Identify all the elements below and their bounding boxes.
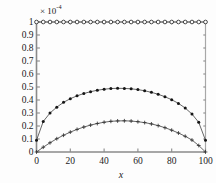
series-marker-0	[143, 20, 147, 24]
series-marker-1	[103, 88, 106, 91]
series-marker-0	[102, 20, 106, 24]
series-marker-1	[76, 94, 79, 97]
y-tick-label: 0	[29, 147, 34, 157]
y-tick-label: 0.7	[22, 56, 34, 66]
series-marker-1	[204, 139, 207, 142]
y-tick-label: 0.6	[22, 69, 34, 79]
series-marker-0	[75, 20, 79, 24]
series-marker-1	[130, 87, 133, 90]
series-marker-1	[136, 88, 139, 91]
series-marker-0	[150, 20, 154, 24]
series-marker-1	[163, 95, 166, 98]
y-tick-label: 1	[29, 17, 34, 27]
series-marker-0	[156, 20, 160, 24]
series-marker-1	[69, 97, 72, 100]
series-marker-0	[123, 20, 127, 24]
series-marker-1	[197, 121, 200, 124]
series-marker-0	[170, 20, 174, 24]
series-marker-1	[55, 106, 58, 109]
y-tick-label: 0.1	[22, 134, 34, 144]
series-marker-1	[190, 113, 193, 116]
series-marker-1	[184, 107, 187, 110]
series-line-1	[37, 88, 206, 140]
series-marker-1	[96, 89, 99, 92]
series-marker-0	[183, 20, 187, 24]
series-marker-1	[109, 87, 112, 90]
y-tick-label: 0.4	[22, 95, 34, 105]
series-marker-0	[197, 20, 201, 24]
series-marker-1	[123, 87, 126, 90]
series-marker-0	[62, 20, 66, 24]
x-tick-label: 40	[99, 156, 109, 166]
series-marker-0	[109, 20, 113, 24]
series-marker-0	[41, 20, 45, 24]
series-marker-0	[55, 20, 59, 24]
series-marker-1	[143, 89, 146, 92]
series-marker-0	[82, 20, 86, 24]
x-tick-label: 100	[198, 156, 213, 166]
series-marker-1	[62, 101, 65, 104]
x-tick-label: 60	[133, 156, 143, 166]
series-marker-1	[42, 120, 45, 123]
series-marker-0	[136, 20, 140, 24]
x-axis-title: x	[118, 169, 124, 180]
series-marker-1	[89, 90, 92, 93]
series-marker-1	[157, 93, 160, 96]
series-marker-0	[48, 20, 52, 24]
series-marker-0	[129, 20, 133, 24]
y-tick-label: 0.2	[22, 121, 34, 131]
series-marker-0	[190, 20, 194, 24]
y-tick-label: 0.9	[22, 30, 34, 40]
y-tick-label: 0.8	[22, 43, 34, 53]
series-marker-1	[82, 92, 85, 95]
chart-canvas: 00.10.20.30.40.50.60.70.80.9102040608010…	[0, 0, 216, 183]
y-tick-label: 0.3	[22, 108, 34, 118]
x-tick-label: 0	[34, 156, 39, 166]
series-marker-1	[116, 87, 119, 90]
y-axis-exponent-value: -4	[56, 3, 61, 10]
y-tick-label: 0.5	[22, 82, 34, 92]
series-marker-1	[170, 98, 173, 101]
series-marker-1	[150, 91, 153, 94]
y-axis-exponent-label: × 10-4	[40, 3, 61, 15]
series-marker-0	[163, 20, 167, 24]
series-marker-0	[68, 20, 72, 24]
series-marker-0	[89, 20, 93, 24]
series-marker-1	[35, 139, 38, 142]
series-marker-0	[177, 20, 181, 24]
series-marker-1	[49, 112, 52, 115]
series-marker-1	[177, 102, 180, 105]
figure-container: 00.10.20.30.40.50.60.70.80.9102040608010…	[0, 0, 216, 183]
series-line-2	[37, 121, 206, 152]
series-marker-0	[116, 20, 120, 24]
series-marker-0	[204, 20, 208, 24]
x-tick-label: 20	[66, 156, 76, 166]
series-marker-0	[95, 20, 99, 24]
x-tick-label: 80	[167, 156, 177, 166]
series-marker-0	[35, 20, 39, 24]
